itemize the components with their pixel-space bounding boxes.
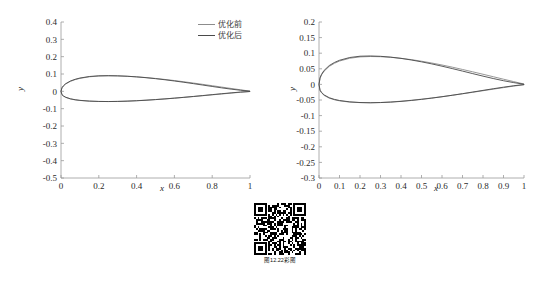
legend-label-before: 优化前 xyxy=(218,19,242,30)
legend-line-before-icon xyxy=(198,24,215,25)
legend-label-after: 优化后 xyxy=(218,30,242,41)
y-tick-label: 0.2 xyxy=(304,17,315,27)
x-tick-label: 0.4 xyxy=(131,181,143,191)
right-airfoil-plot: 0.20.150.10.050-0.05-0.1-0.15-0.2-0.25-0… xyxy=(278,0,555,200)
legend-line-after-icon xyxy=(198,35,215,36)
y-tick-label: 0.2 xyxy=(46,52,57,62)
right-y-axis-title: y xyxy=(287,83,297,95)
x-tick-label: 0.4 xyxy=(395,181,407,191)
y-tick-label: -0.05 xyxy=(296,95,315,105)
x-tick-label: 0.1 xyxy=(334,181,345,191)
y-tick-label: 0 xyxy=(311,80,316,90)
figure-root: 0.40.30.20.10-0.1-0.2-0.3-0.4-0.500.20.4… xyxy=(0,0,555,282)
x-tick-label: 0.2 xyxy=(354,181,365,191)
y-tick-label: 0.3 xyxy=(46,35,58,45)
x-tick-label: 0.6 xyxy=(436,181,448,191)
airfoil-curve xyxy=(61,76,250,102)
x-tick-label: 0.6 xyxy=(169,181,181,191)
y-tick-label: 0.1 xyxy=(304,48,315,58)
y-tick-label: -0.3 xyxy=(301,173,316,183)
qr-code-block: 图12.22彩图 xyxy=(252,203,308,264)
y-tick-label: -0.2 xyxy=(43,121,57,131)
y-tick-label: -0.15 xyxy=(296,126,315,136)
y-tick-label: -0.1 xyxy=(301,111,315,121)
legend-entry-before: 优化前 xyxy=(198,19,242,30)
left-x-axis-title: x xyxy=(160,183,164,193)
airfoil-curve xyxy=(319,57,524,103)
x-tick-label: 0.7 xyxy=(457,181,469,191)
x-tick-label: 0.2 xyxy=(93,181,104,191)
y-tick-label: 0.15 xyxy=(299,33,315,43)
x-tick-label: 0 xyxy=(59,181,64,191)
right-x-axis-title: x xyxy=(434,183,438,193)
y-tick-label: 0.05 xyxy=(299,64,315,74)
y-tick-label: -0.1 xyxy=(43,104,57,114)
figure-caption: 图12.22彩图 xyxy=(252,256,308,264)
x-tick-label: 0.5 xyxy=(416,181,428,191)
x-tick-label: 0.8 xyxy=(207,181,219,191)
legend-entry-after: 优化后 xyxy=(198,30,242,41)
airfoil-curve xyxy=(319,56,524,103)
y-tick-label: -0.5 xyxy=(43,173,58,183)
x-tick-label: 0.8 xyxy=(477,181,489,191)
left-y-axis-title: y xyxy=(15,83,25,95)
y-tick-label: 0 xyxy=(53,87,58,97)
y-tick-label: -0.25 xyxy=(296,158,315,168)
x-tick-label: 0 xyxy=(317,181,322,191)
y-tick-label: -0.4 xyxy=(43,156,58,166)
qr-code-icon xyxy=(254,203,306,255)
y-tick-label: -0.2 xyxy=(301,142,315,152)
x-tick-label: 0.3 xyxy=(375,181,387,191)
left-airfoil-panel: 0.40.30.20.10-0.1-0.2-0.3-0.4-0.500.20.4… xyxy=(0,0,278,200)
x-tick-label: 1 xyxy=(522,181,527,191)
y-tick-label: 0.4 xyxy=(46,17,58,27)
y-tick-label: 0.1 xyxy=(46,69,57,79)
y-tick-label: -0.3 xyxy=(43,139,58,149)
airfoil-curve xyxy=(61,76,250,102)
right-airfoil-panel: 0.20.150.10.050-0.05-0.1-0.15-0.2-0.25-0… xyxy=(278,0,555,200)
left-plot-legend: 优化前 优化后 xyxy=(198,19,242,41)
x-tick-label: 0.9 xyxy=(498,181,510,191)
x-tick-label: 1 xyxy=(248,181,253,191)
